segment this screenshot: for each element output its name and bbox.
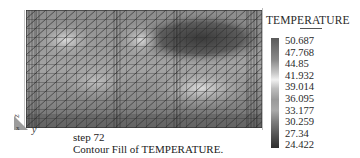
legend-divider	[262, 8, 263, 130]
colorbar-tick-label: 50.687	[285, 35, 314, 46]
axis-label-x: x	[16, 124, 20, 132]
colorbar	[271, 38, 279, 148]
colorbar-tick-label: 24.422	[285, 139, 314, 150]
colorbar-tick-label: 33.177	[285, 105, 314, 116]
contour-viewport[interactable]: TEMPERATURE 50.68747.76844.8541.93239.01…	[0, 0, 360, 158]
colorbar-tick-label: 44.85	[285, 58, 309, 69]
colorbar-tick-label: 30.259	[285, 116, 314, 127]
axis-label-y: y	[32, 124, 36, 135]
contour-caption: Contour Fill of TEMPERATURE.	[73, 143, 223, 155]
colorbar-tick-label: 36.095	[285, 93, 314, 104]
colorbar-tick-label: 39.014	[285, 81, 314, 92]
axis-label-z: z	[11, 114, 21, 118]
colorbar-tick-label: 41.932	[285, 70, 314, 81]
colorbar-tick-label: 47.768	[285, 47, 314, 58]
legend-title: TEMPERATURE	[266, 14, 350, 26]
mesh-grid	[26, 10, 262, 128]
legend-title-underline	[300, 28, 322, 29]
step-label: step 72	[73, 131, 104, 143]
colorbar-tick-label: 27.34	[285, 128, 309, 139]
contour-mesh	[26, 10, 262, 128]
mesh-border-left	[24, 10, 25, 128]
